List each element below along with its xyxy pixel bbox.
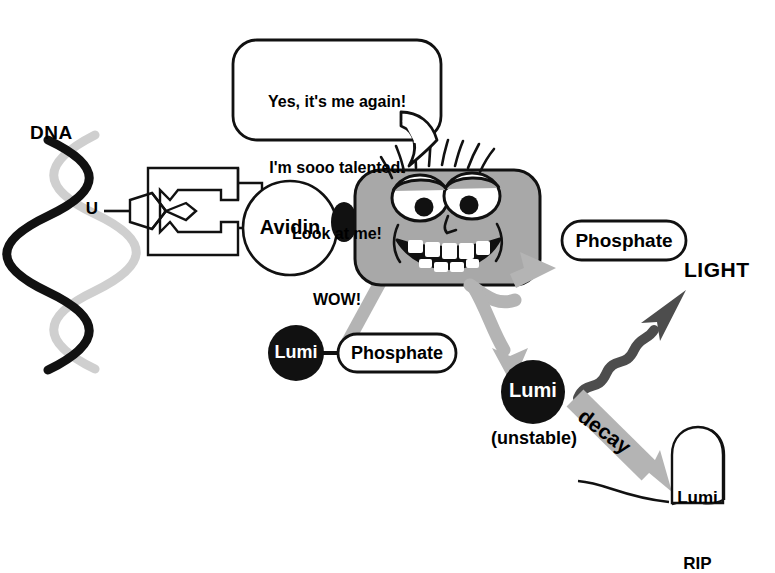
tombstone-line-2: RIP	[672, 553, 723, 573]
product-phosphate-label: Phosphate	[562, 230, 686, 252]
dna-helix	[7, 135, 137, 370]
speech-line-1: Yes, it's me again!	[233, 91, 441, 113]
tombstone-text: Lumi RIP	[672, 443, 723, 573]
light-label: LIGHT	[684, 258, 750, 282]
lumi-state-label: (unstable)	[478, 428, 590, 449]
light-emission-arrow	[578, 290, 686, 398]
tombstone-line-1: Lumi	[672, 487, 723, 509]
speech-line-2: I'm sooo talented.	[233, 157, 441, 179]
speech-bubble-text: Yes, it's me again! I'm sooo talented. L…	[233, 47, 441, 355]
biotin-binding-bracket	[104, 168, 238, 255]
unstable-lumi-label: Lumi	[501, 379, 565, 402]
substrate-phosphate-label: Phosphate	[338, 343, 456, 364]
dna-base-label: U	[80, 199, 104, 219]
avidin-label: Avidin	[243, 216, 337, 239]
substrate-lumi-label: Lumi	[264, 342, 328, 363]
speech-line-4: WOW!	[233, 289, 441, 311]
dna-label: DNA	[30, 122, 73, 144]
